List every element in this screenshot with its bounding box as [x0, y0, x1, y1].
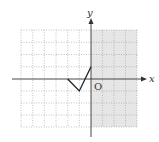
x-axis-arrow-icon: [141, 77, 147, 82]
y-axis-arrow-icon: [89, 18, 94, 24]
x-axis-label: x: [149, 73, 155, 84]
coordinate-diagram: x y O: [0, 0, 159, 142]
y-axis-label: y: [86, 7, 93, 18]
origin-label: O: [94, 81, 102, 92]
